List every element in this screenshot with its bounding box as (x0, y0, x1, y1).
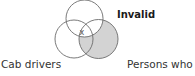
set-label-persons-who-eat: Persons who eat (127, 58, 195, 70)
set-label-cab-drivers: Cab drivers (1, 58, 61, 70)
x-mark: x (80, 28, 85, 37)
verdict-label: Invalid (117, 9, 155, 21)
